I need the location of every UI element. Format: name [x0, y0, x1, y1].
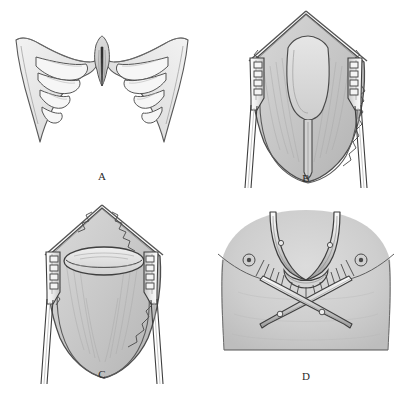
- panel-b-illustration: [204, 0, 408, 198]
- panel-c-illustration: [0, 198, 204, 396]
- panel-d: D: [204, 198, 408, 396]
- oval-opening: [64, 247, 144, 275]
- panel-c: C: [0, 198, 204, 396]
- panel-label-d: D: [204, 371, 408, 382]
- sternum-xiphoid: [95, 36, 110, 86]
- left-costal-margin: [16, 38, 102, 142]
- right-costal-margin: [102, 38, 188, 142]
- panel-d-illustration: [204, 198, 408, 396]
- panel-label-a: A: [0, 171, 204, 182]
- figure-root: A: [0, 0, 408, 396]
- panel-b: B: [204, 0, 408, 198]
- panel-label-c: C: [0, 369, 204, 380]
- panel-a-illustration: [0, 0, 204, 198]
- panel-label-b: B: [204, 173, 408, 184]
- panel-a: A: [0, 0, 204, 198]
